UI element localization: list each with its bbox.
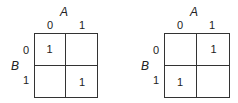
column-label-0: 0 [47, 20, 53, 31]
karnaugh-map-1: A 0 1 B 0 1 1 1 [0, 0, 119, 103]
cell-b1-a0: 1 [164, 66, 196, 98]
row-label-1: 1 [23, 75, 29, 86]
column-variable-label: A [60, 7, 68, 18]
cell-b1-a0 [34, 66, 65, 98]
column-label-1: 1 [209, 20, 215, 31]
karnaugh-map-2: A 0 1 B 0 1 1 1 [130, 0, 238, 103]
row-label-0: 0 [23, 45, 29, 56]
cell-b0-a1 [66, 33, 98, 65]
cell-b0-a0: 1 [34, 33, 65, 65]
cell-b0-a0 [164, 33, 196, 65]
row-variable-label: B [141, 61, 149, 72]
column-label-1: 1 [79, 20, 85, 31]
column-variable-label: A [190, 7, 198, 18]
cell-b0-a1: 1 [197, 33, 230, 65]
row-label-0: 0 [153, 45, 159, 56]
cell-b1-a1: 1 [66, 66, 98, 98]
cell-b1-a1 [197, 66, 230, 98]
row-label-1: 1 [153, 75, 159, 86]
column-label-0: 0 [177, 20, 183, 31]
row-variable-label: B [11, 61, 19, 72]
